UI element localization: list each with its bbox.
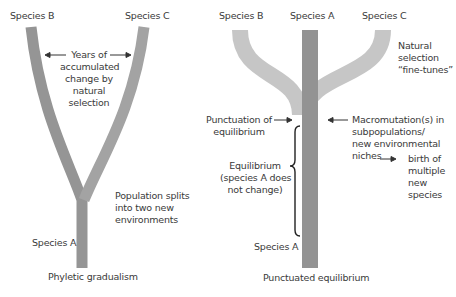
right-species-a-bottom-label: Species A <box>254 241 298 253</box>
years-annotation: Years of accumulated change by natural s… <box>60 49 118 109</box>
left-species-a-label: Species A <box>32 237 76 249</box>
equilibrium-brace <box>290 126 300 236</box>
punctuated-equilibrium-title: Punctuated equilibrium <box>263 272 369 284</box>
phyletic-gradualism-title: Phyletic gradualism <box>48 271 138 283</box>
right-species-b-label: Species B <box>219 10 263 22</box>
population-split-annotation: Population splits into two new environme… <box>115 190 189 226</box>
punctuation-annotation: Punctuation of equilibrium <box>206 114 272 138</box>
left-species-b-label: Species B <box>10 10 54 22</box>
right-species-c-label: Species C <box>362 10 406 22</box>
natural-selection-annotation: Natural selection “fine-tunes” <box>398 40 453 76</box>
equilibrium-annotation: Equilibrium (species A does not change) <box>220 160 290 196</box>
left-species-c-label: Species C <box>125 10 169 22</box>
birth-annotation: birth of multiple new species <box>408 153 445 201</box>
right-species-a-top-label: Species A <box>290 10 334 22</box>
